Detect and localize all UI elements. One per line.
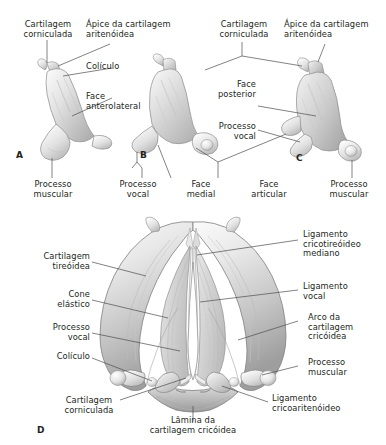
label-coliculo-a: Colículo xyxy=(86,62,156,72)
panel-letter-b: B xyxy=(140,150,147,160)
label-face-posterior-c: Face posterior xyxy=(198,80,256,99)
panel-letter-a: A xyxy=(16,150,23,160)
label-processo-vocal-c: Processo vocal xyxy=(190,122,256,141)
label-face-articular-c: Face articular xyxy=(238,180,300,199)
label-processo-muscular-a: Processo muscular xyxy=(20,180,86,199)
panel-letter-d: D xyxy=(37,425,44,435)
label-arco-cartilagem-cricoidea-d: Arco da cartilagem cricóidea xyxy=(308,313,382,342)
label-apice-cartilagem-aritenoidea-c: Ápice da cartilagem aritenóidea xyxy=(284,20,384,39)
label-processo-muscular-d: Processo muscular xyxy=(308,358,382,377)
label-cartilagem-corniculada-a: Cartilagem corniculada xyxy=(6,20,90,39)
panel-d-larynx-superior-view xyxy=(100,217,286,412)
label-face-anterolateral-a: Face anterolateral xyxy=(86,92,160,111)
anatomical-figure: Cartilagem corniculada Ápice da cartilag… xyxy=(0,0,386,445)
label-cartilagem-corniculada-d: Cartilagem corniculada xyxy=(48,396,130,415)
label-ligamento-cricotireoideo-mediano-d: Ligamento cricotireóideo mediano xyxy=(303,230,385,259)
label-ligamento-cricoaritenoideo-d: Ligamento cricoaritenóideo xyxy=(272,394,380,413)
label-processo-muscular-c: Processo muscular xyxy=(316,180,382,199)
label-processo-vocal-b: Processo vocal xyxy=(106,180,170,199)
label-lamina-cartilagem-cricoidea-d: Lâmina da cartilagem cricóidea xyxy=(136,416,250,435)
label-apice-cartilagem-aritenoidea-a: Ápice da cartilagem aritenóidea xyxy=(86,20,190,39)
label-ligamento-vocal-d: Ligamento vocal xyxy=(303,282,381,301)
label-cartilagem-tireoidea-d: Cartilagem tireóidea xyxy=(16,252,90,271)
figure-artwork xyxy=(0,0,386,445)
panel-c-arytenoid-cartilage xyxy=(282,58,362,161)
panel-letter-c: C xyxy=(296,153,303,163)
label-processo-vocal-d: Processo vocal xyxy=(12,323,90,342)
label-cone-elastico-d: Cone elástico xyxy=(22,290,90,309)
label-coliculo-d: Colículo xyxy=(24,352,90,362)
label-face-medial-b: Face medial xyxy=(172,180,230,199)
label-cartilagem-corniculada-c: Cartilagem corniculada xyxy=(204,20,284,39)
